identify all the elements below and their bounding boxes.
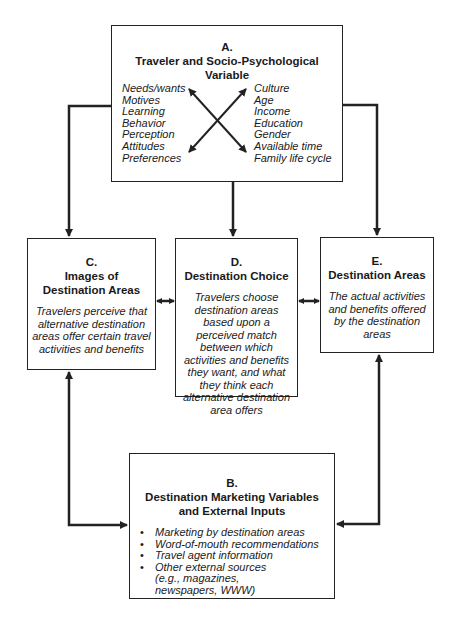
list-item: Other external sources (e.g., magazines,… <box>140 562 334 597</box>
box-e-destination-areas: E. Destination Areas The actual activiti… <box>320 237 434 353</box>
demographic-list: Culture Age Income Education Gender Avai… <box>254 83 332 164</box>
box-d-description: Travelers choose destination areas based… <box>176 291 297 416</box>
arrow-a-to-e <box>343 105 377 235</box>
box-d-letter: D. <box>176 255 297 269</box>
list-item: Attitudes <box>122 141 186 153</box>
box-e-title: Destination Areas <box>321 268 433 282</box>
box-b-marketing: B. Destination Marketing Variables and E… <box>129 453 335 599</box>
list-item: Culture <box>254 83 332 95</box>
box-c-images: C. Images of Destination Areas Travelers… <box>27 238 156 370</box>
box-e-letter: E. <box>321 254 433 268</box>
box-b-letter: B. <box>130 476 334 490</box>
arrow-b-e <box>337 355 379 524</box>
box-d-title: Destination Choice <box>176 269 297 283</box>
box-e-description: The actual activities and benefits offer… <box>321 290 433 340</box>
box-a-letter: A. <box>112 40 342 54</box>
list-item: Available time <box>254 141 332 153</box>
socio-psych-list: Needs/wants Motives Learning Behavior Pe… <box>122 83 186 164</box>
box-a-title: Traveler and Socio-Psychological Variabl… <box>112 54 342 82</box>
box-b-title: Destination Marketing Variables and Exte… <box>130 490 334 518</box>
list-item: Needs/wants <box>122 83 186 95</box>
marketing-inputs-list: Marketing by destination areas Word-of-m… <box>130 527 334 597</box>
box-c-title: Images of Destination Areas <box>28 269 155 297</box>
box-d-choice: D. Destination Choice Travelers choose d… <box>175 238 298 397</box>
box-c-letter: C. <box>28 255 155 269</box>
arrow-a-to-c <box>69 106 111 236</box>
box-c-description: Travelers perceive that alternative dest… <box>28 305 155 355</box>
list-item: Marketing by destination areas <box>140 527 334 539</box>
list-item: Family life cycle <box>254 153 332 165</box>
box-a-traveler-variables: A. Traveler and Socio-Psychological Vari… <box>111 25 343 182</box>
arrow-b-c <box>69 372 127 525</box>
list-item: Preferences <box>122 153 186 165</box>
